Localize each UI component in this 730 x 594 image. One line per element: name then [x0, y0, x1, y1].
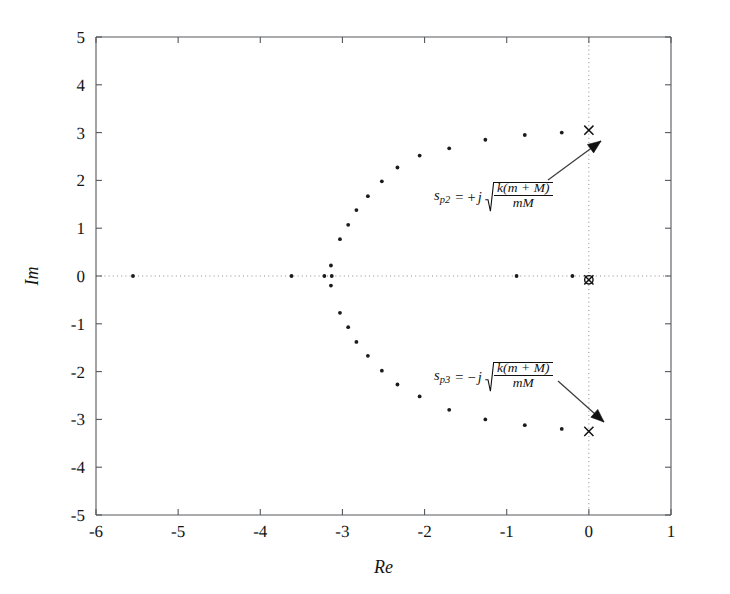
x-axis-tick-label: -2 — [417, 522, 431, 541]
locus-point — [571, 274, 575, 278]
y-axis-tick-label: 1 — [77, 219, 86, 238]
locus-point — [329, 264, 333, 268]
locus-point — [483, 418, 487, 422]
annotation-sp3-sign: − — [468, 370, 476, 385]
locus-point — [523, 133, 527, 137]
annotation-sp2-sign: + — [468, 190, 476, 205]
locus-point — [330, 274, 334, 278]
y-axis-tick-label: -3 — [71, 410, 85, 429]
locus-point — [322, 274, 326, 278]
locus-point — [483, 138, 487, 142]
y-axis-title: Im — [22, 267, 42, 287]
locus-point — [354, 340, 358, 344]
locus-point — [346, 223, 350, 227]
annotation-sp3: sp3 = − j k(m + M) mM — [434, 362, 553, 392]
x-axis-tick-label: 1 — [667, 522, 676, 541]
annotation-sp2-leader-arrowhead — [587, 141, 601, 153]
locus-point — [131, 274, 135, 278]
x-axis-tick-label: -6 — [89, 522, 103, 541]
locus-point — [396, 166, 400, 170]
locus-point — [380, 179, 384, 183]
annotation-sp2-radical: k(m + M) mM — [485, 182, 553, 212]
x-axis-title: Re — [373, 557, 393, 577]
x-axis-tick-label: -5 — [171, 522, 185, 541]
y-axis-tick-label: 4 — [77, 76, 86, 95]
annotation-leaders-group — [548, 141, 604, 422]
x-axis-tick-label: 0 — [585, 522, 594, 541]
annotation-sp3-fraction: k(m + M) mM — [494, 361, 553, 391]
annotation-sp3-denominator: mM — [494, 375, 553, 391]
annotation-sp2-equals: = — [452, 190, 465, 205]
locus-point — [396, 383, 400, 387]
locus-point — [523, 423, 527, 427]
y-axis-tick-label: 3 — [77, 124, 86, 143]
root-locus-figure: -6-5-4-3-2-101543210-1-2-3-4-5 ReIm sp2 … — [0, 0, 730, 594]
annotation-sp3-numerator: k(m + M) — [494, 361, 553, 376]
annotation-sp3-imag: j — [478, 370, 483, 385]
y-axis-tick-label: -1 — [71, 315, 85, 334]
locus-point — [447, 408, 451, 412]
locus-point — [418, 395, 422, 399]
locus-point — [338, 237, 342, 241]
annotation-sp3-equals: = — [452, 370, 465, 385]
locus-point — [447, 146, 451, 150]
locus-point — [380, 369, 384, 373]
y-axis-tick-label: -4 — [71, 458, 86, 477]
locus-point — [418, 154, 422, 158]
annotation-sp3-radical: k(m + M) mM — [485, 362, 553, 392]
locus-point — [346, 325, 350, 329]
x-axis-tick-label: -4 — [253, 522, 268, 541]
locus-point — [329, 284, 333, 288]
locus-point — [560, 131, 564, 135]
locus-point — [338, 311, 342, 315]
annotation-sp2-fraction: k(m + M) mM — [494, 181, 553, 211]
locus-point — [560, 427, 564, 431]
x-axis-tick-label: -1 — [500, 522, 514, 541]
x-axis-tick-label: -3 — [335, 522, 349, 541]
locus-point — [354, 208, 358, 212]
annotation-sp2-numerator: k(m + M) — [494, 181, 553, 196]
annotation-sp3-subscript: p3 — [440, 375, 451, 386]
annotation-sp2-imag: j — [478, 190, 483, 205]
annotation-sp2-subscript: p2 — [440, 195, 451, 206]
y-axis-tick-label: 5 — [77, 28, 86, 47]
locus-point — [366, 354, 370, 358]
radical-hook-icon — [485, 182, 494, 212]
y-axis-tick-label: -2 — [71, 363, 85, 382]
plot-canvas: -6-5-4-3-2-101543210-1-2-3-4-5 ReIm — [0, 0, 730, 594]
y-axis-tick-label: -5 — [71, 506, 85, 525]
radical-hook-icon — [485, 362, 494, 392]
annotation-sp2-denominator: mM — [494, 195, 553, 211]
locus-point — [366, 194, 370, 198]
annotation-sp2: sp2 = + j k(m + M) mM — [434, 182, 553, 212]
y-axis-tick-label: 2 — [77, 171, 86, 190]
y-axis-tick-label: 0 — [77, 267, 86, 286]
locus-point — [515, 274, 519, 278]
locus-point — [290, 274, 294, 278]
